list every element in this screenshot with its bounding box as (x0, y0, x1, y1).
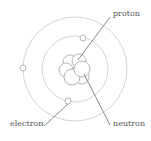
electron-dot (20, 65, 26, 71)
electron-dot (80, 35, 86, 41)
proton-label: proton (113, 10, 140, 18)
atom-diagram: proton electron neutron (0, 0, 151, 141)
electron-dot (65, 98, 71, 104)
electron-label: electron (10, 120, 44, 128)
nucleon (74, 61, 90, 77)
nucleus (59, 54, 90, 85)
neutron-label: neutron (113, 120, 145, 128)
electron-leader-line (44, 104, 68, 126)
